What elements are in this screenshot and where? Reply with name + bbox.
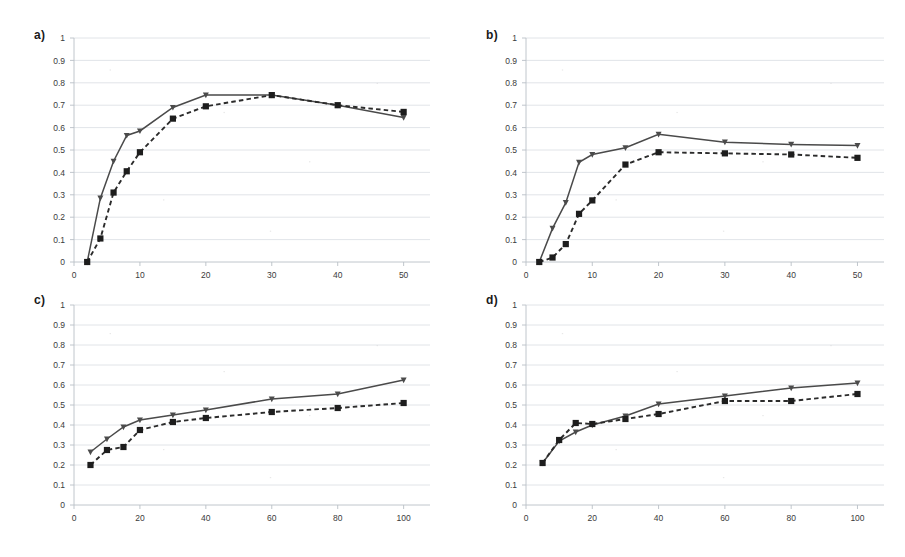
x-tick-label: 40 bbox=[786, 270, 796, 280]
x-tick-label: 20 bbox=[654, 270, 664, 280]
y-tick-label: 0.3 bbox=[505, 440, 517, 450]
y-tick-label: 0.7 bbox=[53, 360, 65, 370]
data-point-marker-square bbox=[401, 400, 407, 406]
series-dashed-line bbox=[87, 95, 403, 262]
data-point-marker-square bbox=[203, 415, 209, 421]
x-tick-label: 80 bbox=[333, 513, 343, 523]
data-point-marker-square bbox=[655, 149, 661, 155]
y-tick-label: 0.4 bbox=[505, 420, 517, 430]
y-tick-label: 0 bbox=[512, 257, 517, 267]
y-tick-label: 0.5 bbox=[505, 400, 517, 410]
panel-b-label: b) bbox=[486, 28, 498, 42]
panel-c: c) 00.10.20.30.40.50.60.70.80.9102040608… bbox=[0, 283, 452, 557]
data-point-marker-triangle bbox=[124, 133, 130, 139]
y-tick-label: 0.6 bbox=[53, 380, 65, 390]
x-tick-label: 50 bbox=[853, 270, 863, 280]
series-solid-line bbox=[90, 380, 403, 452]
y-tick-label: 0.1 bbox=[53, 480, 65, 490]
data-point-marker-square bbox=[622, 161, 628, 167]
x-tick-label: 100 bbox=[397, 513, 411, 523]
data-point-marker-square bbox=[556, 437, 562, 443]
data-point-marker-square bbox=[170, 116, 176, 122]
data-point-marker-square bbox=[788, 398, 794, 404]
x-tick-label: 0 bbox=[524, 513, 529, 523]
x-tick-label: 20 bbox=[135, 513, 145, 523]
x-tick-label: 40 bbox=[333, 270, 343, 280]
data-point-marker-square bbox=[120, 444, 126, 450]
panel-a: a) 00.10.20.30.40.50.60.70.80.9101020304… bbox=[0, 0, 452, 283]
data-point-marker-square bbox=[655, 411, 661, 417]
data-point-marker-square bbox=[104, 447, 110, 453]
y-tick-label: 0.2 bbox=[53, 460, 65, 470]
data-point-marker-square bbox=[269, 92, 275, 98]
y-tick-label: 0.2 bbox=[505, 212, 517, 222]
x-tick-label: 0 bbox=[524, 270, 529, 280]
y-tick-label: 0.9 bbox=[505, 320, 517, 330]
data-point-marker-square bbox=[97, 235, 103, 241]
data-point-marker-square bbox=[539, 460, 545, 466]
data-point-marker-square bbox=[110, 189, 116, 195]
data-point-marker-square bbox=[549, 254, 555, 260]
panel-a-plot: 00.10.20.30.40.50.60.70.80.9101020304050 bbox=[0, 0, 452, 283]
x-tick-label: 80 bbox=[786, 513, 796, 523]
series-dashed-line bbox=[539, 152, 857, 262]
y-tick-label: 1 bbox=[60, 300, 65, 310]
y-tick-label: 0.7 bbox=[505, 360, 517, 370]
y-tick-label: 0.3 bbox=[53, 190, 65, 200]
panel-c-plot: 00.10.20.30.40.50.60.70.80.9102040608010… bbox=[0, 283, 452, 557]
y-tick-label: 0.3 bbox=[505, 190, 517, 200]
x-tick-label: 30 bbox=[720, 270, 730, 280]
y-tick-label: 0.8 bbox=[505, 78, 517, 88]
y-tick-label: 0.1 bbox=[53, 235, 65, 245]
y-tick-label: 0.6 bbox=[505, 380, 517, 390]
y-tick-label: 0 bbox=[60, 257, 65, 267]
y-tick-label: 0.8 bbox=[505, 340, 517, 350]
data-point-marker-square bbox=[269, 409, 275, 415]
data-point-marker-square bbox=[335, 405, 341, 411]
y-tick-label: 0.2 bbox=[505, 460, 517, 470]
x-tick-label: 50 bbox=[399, 270, 409, 280]
panel-d-label: d) bbox=[486, 293, 498, 307]
data-point-marker-triangle bbox=[563, 200, 569, 206]
y-tick-label: 0.5 bbox=[53, 145, 65, 155]
data-point-marker-square bbox=[589, 197, 595, 203]
y-tick-label: 1 bbox=[512, 33, 517, 43]
y-tick-label: 0.4 bbox=[53, 168, 65, 178]
x-tick-label: 20 bbox=[201, 270, 211, 280]
y-tick-label: 0.8 bbox=[53, 78, 65, 88]
x-tick-label: 30 bbox=[267, 270, 277, 280]
x-tick-label: 10 bbox=[588, 270, 598, 280]
x-tick-label: 60 bbox=[267, 513, 277, 523]
data-point-marker-square bbox=[170, 419, 176, 425]
data-point-marker-square bbox=[335, 102, 341, 108]
data-point-marker-triangle bbox=[576, 160, 582, 166]
x-tick-label: 0 bbox=[72, 513, 77, 523]
y-tick-label: 0.2 bbox=[53, 212, 65, 222]
series-dashed-line bbox=[90, 403, 403, 465]
y-tick-label: 0.7 bbox=[53, 100, 65, 110]
y-tick-label: 0.9 bbox=[53, 56, 65, 66]
multi-panel-line-chart-figure: a) 00.10.20.30.40.50.60.70.80.9101020304… bbox=[0, 0, 905, 557]
y-tick-label: 1 bbox=[512, 300, 517, 310]
data-point-marker-square bbox=[722, 398, 728, 404]
x-tick-label: 20 bbox=[588, 513, 598, 523]
data-point-marker-square bbox=[854, 155, 860, 161]
data-point-marker-triangle bbox=[97, 196, 103, 202]
panel-b-plot: 00.10.20.30.40.50.60.70.80.9101020304050 bbox=[452, 0, 905, 283]
y-tick-label: 0.8 bbox=[53, 340, 65, 350]
y-tick-label: 0.5 bbox=[53, 400, 65, 410]
x-tick-label: 10 bbox=[135, 270, 145, 280]
data-point-marker-square bbox=[87, 462, 93, 468]
series-dashed-line bbox=[543, 394, 858, 463]
series-solid-line bbox=[87, 95, 403, 262]
data-point-marker-square bbox=[137, 427, 143, 433]
panel-b: b) 00.10.20.30.40.50.60.70.80.9101020304… bbox=[452, 0, 905, 283]
panel-d: d) 00.10.20.30.40.50.60.70.80.9102040608… bbox=[452, 283, 905, 557]
data-point-marker-square bbox=[137, 149, 143, 155]
panel-c-label: c) bbox=[34, 293, 45, 307]
x-tick-label: 40 bbox=[654, 513, 664, 523]
data-point-marker-square bbox=[573, 420, 579, 426]
panel-a-label: a) bbox=[34, 28, 45, 42]
x-tick-label: 60 bbox=[720, 513, 730, 523]
data-point-marker-triangle bbox=[111, 159, 117, 165]
